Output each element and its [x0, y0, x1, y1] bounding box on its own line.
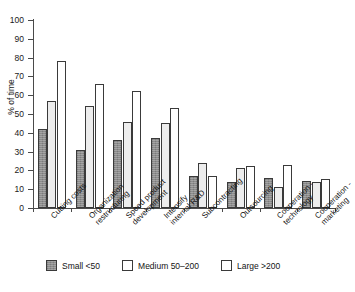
bar-large — [95, 84, 104, 208]
y-axis-tick-label: 20 — [0, 166, 24, 174]
y-axis-tick-label: 60 — [0, 91, 24, 99]
bar-group — [184, 20, 222, 208]
legend-swatch-large — [221, 260, 232, 271]
bar-group — [146, 20, 184, 208]
bar-group — [297, 20, 335, 208]
bar-group — [260, 20, 298, 208]
y-axis-tick-label: 50 — [0, 110, 24, 118]
x-axis-tick-mark — [222, 208, 223, 212]
bar-medium — [85, 106, 94, 208]
y-axis-tick-label: 100 — [0, 16, 24, 24]
bar-large — [132, 91, 141, 208]
legend-item-large: Large >200 — [221, 260, 280, 271]
plot-area — [33, 20, 335, 208]
bar-small — [38, 129, 47, 208]
x-axis-tick-mark — [260, 208, 261, 212]
chart-legend: Small <50Medium 50–200Large >200 — [46, 260, 280, 271]
y-axis-tick-label: 30 — [0, 148, 24, 156]
bar-group — [109, 20, 147, 208]
bar-small — [76, 150, 85, 208]
bar-large — [57, 61, 66, 208]
bar-large — [170, 108, 179, 208]
legend-item-small: Small <50 — [46, 260, 122, 271]
x-axis-tick-mark — [33, 208, 34, 212]
legend-swatch-medium — [122, 260, 133, 271]
bar-medium — [274, 187, 283, 208]
legend-label: Medium 50–200 — [138, 261, 199, 271]
bar-group — [33, 20, 71, 208]
bar-medium — [47, 101, 56, 208]
y-axis-tick-label: 40 — [0, 129, 24, 137]
y-axis-tick-label: 80 — [0, 54, 24, 62]
legend-label: Small <50 — [62, 261, 100, 271]
bar-group — [71, 20, 109, 208]
legend-item-medium: Medium 50–200 — [122, 260, 221, 271]
y-axis-tick-label: 70 — [0, 72, 24, 80]
y-axis-tick-label: 10 — [0, 185, 24, 193]
legend-label: Large >200 — [237, 261, 280, 271]
x-axis-tick-mark — [71, 208, 72, 212]
legend-swatch-small — [46, 260, 57, 271]
y-axis-tick-label: 90 — [0, 35, 24, 43]
y-axis-tick-label: 0 — [0, 204, 24, 212]
